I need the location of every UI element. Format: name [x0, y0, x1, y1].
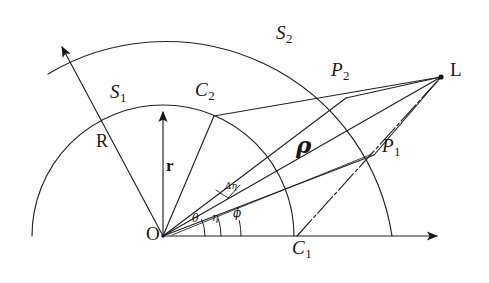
chord-C1-to-L: [297, 77, 441, 236]
point-L-dot: [438, 74, 443, 79]
label-radius-r: r: [166, 157, 174, 174]
label-arc-S2-letter: S: [276, 22, 286, 43]
label-angle-theta: θ: [192, 213, 199, 224]
label-arc-S1: S1: [110, 82, 126, 105]
label-point-C1: C1: [292, 238, 312, 261]
label-arc-S1-subscript: 1: [120, 90, 127, 105]
label-arc-S2: S2: [276, 23, 292, 46]
label-point-C2: C2: [195, 80, 215, 103]
label-delta-eta: Δη: [225, 182, 237, 191]
label-angle-phi: ϕ: [233, 207, 241, 219]
ray-O-to-P2: [163, 98, 346, 236]
label-arc-S1-letter: S: [110, 81, 120, 102]
label-point-C2-subscript: 2: [208, 88, 215, 103]
label-point-P2-letter: P: [331, 59, 343, 80]
label-point-P2-subscript: 2: [343, 68, 350, 83]
label-point-C2-letter: C: [195, 79, 208, 100]
chord-P2-to-L: [346, 77, 441, 98]
label-rho: ρ: [296, 133, 311, 156]
label-point-P2: P2: [331, 60, 350, 83]
figure-canvas: [0, 0, 489, 283]
label-light-source-L: L: [450, 60, 462, 79]
label-origin: O: [146, 224, 160, 243]
ray-O-to-C2: [163, 116, 214, 236]
label-point-P1: P1: [382, 136, 401, 159]
label-angle-eta: η: [212, 212, 219, 223]
radius-R-diagonal: [62, 47, 163, 236]
label-point-C1-subscript: 1: [305, 246, 312, 261]
label-radius-R: R: [96, 132, 108, 150]
rho-guide-line: [172, 154, 372, 235]
angle-arc-phi: [239, 221, 241, 236]
label-arc-S2-subscript: 2: [286, 31, 293, 46]
label-point-C1-letter: C: [292, 237, 305, 258]
point-O-dot: [161, 234, 165, 238]
label-point-P1-subscript: 1: [394, 144, 401, 159]
label-point-P1-letter: P: [382, 135, 394, 156]
geometry-figure: O L ρ R r S1 S2 P1 P2 C1 C2 θ η ϕ Δη: [0, 0, 489, 283]
